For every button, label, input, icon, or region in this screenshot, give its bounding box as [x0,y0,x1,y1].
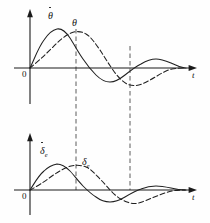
upper-panel [14,9,197,104]
lower-y-axis-arrow-icon [27,133,33,141]
label-delta-e-dot: δ e [40,146,48,159]
upper-x-axis-label: t [192,71,195,80]
delta-symbol: δ [40,146,45,156]
overdot-mark-delta [41,142,43,144]
label-theta-dot: θ [48,11,53,21]
lower-x-axis-label: t [192,193,195,202]
upper-origin-label: 0 [22,70,27,79]
theta-symbol: θ [72,17,77,28]
curve-theta-dot [30,29,185,82]
delta-subscript-e: e [87,162,90,169]
plot-canvas [0,0,210,223]
theta-dot-glyph: θ [48,11,53,21]
theta-symbol: θ [48,11,53,21]
figure-container: θ θ 0 t δ e δe 0 t [0,0,210,223]
curve-delta-e-dot [30,164,185,202]
delta-subscript-e: e [45,151,48,158]
label-delta-e: δe [82,157,90,170]
curve-theta [30,32,186,86]
delta-e-dot-glyph: δ [40,146,45,156]
lower-origin-label: 0 [22,192,27,201]
label-theta: θ [72,18,77,28]
upper-y-axis-arrow-icon [27,9,33,17]
overdot-mark-theta [49,7,51,9]
curve-delta-e [30,165,186,203]
